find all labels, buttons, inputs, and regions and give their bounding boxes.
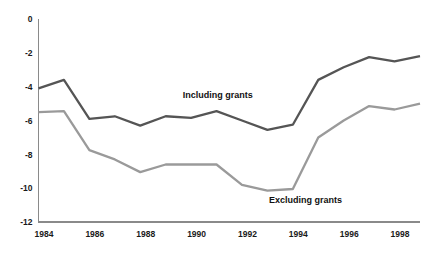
x-axis-tick-labels: 19841986198819901992199419961998	[35, 229, 410, 239]
y-tick-neg4: -4	[25, 82, 33, 92]
chart-canvas: 0-2-4-6-8-10-12 198419861988199019921994…	[0, 0, 425, 256]
x-tick-1992: 1992	[238, 229, 257, 239]
y-axis-tick-labels: 0-2-4-6-8-10-12	[20, 14, 33, 227]
x-tick-1990: 1990	[187, 229, 206, 239]
series-label-including-grants: Including grants	[183, 90, 253, 100]
x-tick-1988: 1988	[136, 229, 155, 239]
chart-axes	[39, 19, 421, 222]
y-tick-0: 0	[28, 14, 33, 24]
x-tick-1996: 1996	[340, 229, 359, 239]
y-tick-neg2: -2	[25, 48, 33, 58]
series-annotations: Including grantsExcluding grants	[183, 90, 342, 205]
y-tick-neg12: -12	[20, 217, 33, 227]
x-tick-1986: 1986	[85, 229, 104, 239]
y-tick-neg10: -10	[20, 183, 33, 193]
series-label-excluding-grants: Excluding grants	[269, 195, 342, 205]
y-tick-neg8: -8	[25, 150, 33, 160]
x-tick-1998: 1998	[391, 229, 410, 239]
x-tick-1984: 1984	[35, 229, 54, 239]
line-chart-figure: ........ 0-2-4-6-8-10-12 198419861988199…	[0, 0, 425, 256]
y-tick-neg6: -6	[25, 116, 33, 126]
x-tick-1994: 1994	[289, 229, 308, 239]
data-series-lines	[39, 56, 421, 190]
